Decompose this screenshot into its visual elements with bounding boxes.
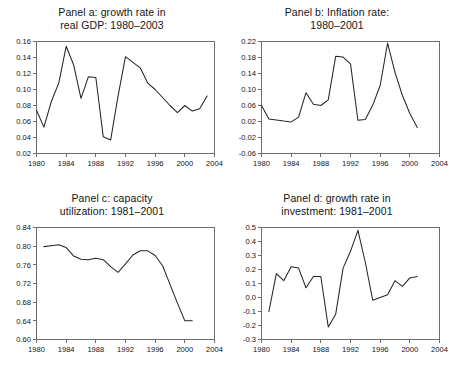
x-tick-label: 2004 [431, 345, 448, 354]
x-tick-label: 1984 [283, 159, 300, 168]
y-tick-label: 0.64 [16, 317, 31, 326]
y-tick-label: -0.3 [243, 335, 256, 344]
panel-b-plot: -0.06-0.020.020.060.100.140.180.22198019… [225, 0, 449, 186]
y-tick-label: 0.4 [245, 237, 256, 246]
x-tick-label: 2000 [401, 159, 418, 168]
x-tick-label: 1996 [147, 345, 164, 354]
data-series-line [44, 245, 192, 321]
panel-d: Panel d: growth rate in investment: 1981… [225, 186, 449, 372]
x-tick-label: 1984 [58, 345, 75, 354]
x-tick-label: 1988 [87, 345, 104, 354]
panel-b: Panel b: Inflation rate: 1980–2001 -0.06… [225, 0, 449, 186]
panel-a-plot: 0.020.040.060.080.100.120.140.1619801984… [0, 0, 224, 186]
y-tick-label: 0.3 [245, 251, 256, 260]
x-tick-label: 1980 [253, 159, 270, 168]
y-tick-label: 0.5 [245, 223, 256, 232]
y-tick-label: -0.2 [243, 321, 256, 330]
y-tick-label: 0.0 [245, 293, 256, 302]
y-tick-label: 0.68 [16, 298, 31, 307]
y-tick-label: 0.16 [16, 37, 31, 46]
x-tick-label: 1988 [312, 345, 329, 354]
x-tick-label: 2004 [431, 159, 448, 168]
x-tick-label: 1980 [253, 345, 270, 354]
x-tick-label: 1992 [342, 159, 359, 168]
y-tick-label: 0.10 [241, 85, 256, 94]
x-tick-label: 1980 [28, 159, 45, 168]
panel-d-plot: -0.3-0.2-0.10.00.10.20.30.40.51980198419… [225, 186, 449, 372]
x-tick-label: 1996 [147, 159, 164, 168]
y-tick-label: 0.10 [16, 85, 31, 94]
x-tick-label: 1988 [87, 159, 104, 168]
y-tick-label: 0.1 [245, 279, 256, 288]
y-tick-label: 0.76 [16, 261, 31, 270]
x-tick-label: 2004 [206, 345, 223, 354]
data-series-line [37, 46, 208, 140]
y-tick-label: 0.2 [245, 265, 256, 274]
plot-frame [262, 228, 440, 340]
panel-c: Panel c: capacity utilization: 1981–2001… [0, 186, 224, 372]
y-tick-label: 0.22 [241, 37, 256, 46]
panel-c-plot: 0.600.640.680.720.760.800.84198019841988… [0, 186, 224, 372]
panel-c-svg: 0.600.640.680.720.760.800.84198019841988… [0, 186, 224, 372]
y-tick-label: 0.18 [241, 53, 256, 62]
x-tick-label: 1984 [58, 159, 75, 168]
y-tick-label: 0.02 [241, 117, 256, 126]
x-tick-label: 1992 [117, 159, 134, 168]
panel-a: Panel a: growth rate in real GDP: 1980–2… [0, 0, 224, 186]
plot-frame [262, 42, 440, 154]
x-tick-label: 1992 [342, 345, 359, 354]
y-tick-label: -0.06 [239, 149, 256, 158]
y-tick-label: 0.04 [16, 133, 31, 142]
data-series-line [262, 43, 418, 127]
y-tick-label: 0.14 [16, 53, 31, 62]
x-tick-label: 1988 [312, 159, 329, 168]
plot-frame [37, 228, 215, 340]
y-tick-label: 0.02 [16, 149, 31, 158]
x-tick-label: 2000 [176, 159, 193, 168]
data-series-line [269, 230, 417, 327]
y-tick-label: 0.60 [16, 335, 31, 344]
panel-d-svg: -0.3-0.2-0.10.00.10.20.30.40.51980198419… [225, 186, 449, 372]
x-tick-label: 1992 [117, 345, 134, 354]
y-tick-label: -0.1 [243, 307, 256, 316]
x-tick-label: 1996 [372, 345, 389, 354]
panel-b-svg: -0.06-0.020.020.060.100.140.180.22198019… [225, 0, 449, 186]
x-tick-label: 1980 [28, 345, 45, 354]
x-tick-label: 1996 [372, 159, 389, 168]
y-tick-label: 0.12 [16, 69, 31, 78]
y-tick-label: 0.80 [16, 242, 31, 251]
x-tick-label: 2000 [176, 345, 193, 354]
y-tick-label: 0.14 [241, 69, 256, 78]
figure-container: Panel a: growth rate in real GDP: 1980–2… [0, 0, 449, 373]
panel-a-svg: 0.020.040.060.080.100.120.140.1619801984… [0, 0, 224, 186]
y-tick-label: 0.72 [16, 279, 31, 288]
y-tick-label: 0.84 [16, 223, 31, 232]
x-tick-label: 2000 [401, 345, 418, 354]
y-tick-label: 0.06 [241, 101, 256, 110]
y-tick-label: 0.06 [16, 117, 31, 126]
x-tick-label: 2004 [206, 159, 223, 168]
y-tick-label: -0.02 [239, 133, 256, 142]
x-tick-label: 1984 [283, 345, 300, 354]
y-tick-label: 0.08 [16, 101, 31, 110]
